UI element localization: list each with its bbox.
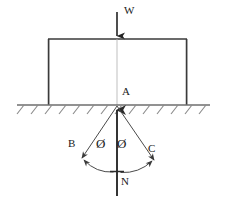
label-normal-reaction: N: [121, 176, 129, 187]
label-angle-left: Ø: [96, 137, 105, 150]
label-angle-right: Ø: [117, 137, 126, 150]
cone-angle-arc: [84, 160, 152, 173]
block-rectangle: [48, 39, 187, 105]
ground-hatching: [17, 105, 206, 114]
ground-surface: [17, 105, 210, 114]
label-contact-point-a: A: [122, 86, 130, 97]
label-cone-edge-b: B: [68, 138, 75, 149]
diagram-canvas: [0, 0, 225, 203]
label-weight: W: [124, 5, 134, 16]
friction-cone-diagram: W A B C N Ø Ø: [0, 0, 225, 203]
label-cone-edge-c: C: [148, 143, 155, 154]
